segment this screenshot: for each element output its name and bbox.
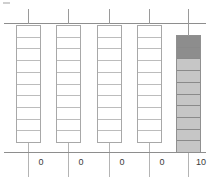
meter-cell	[138, 108, 161, 120]
meter-cell-filled	[177, 106, 200, 118]
meter-cell-filled	[177, 83, 200, 95]
meter-cell	[98, 49, 121, 61]
meter-cell-filled	[177, 95, 200, 107]
meter-cell	[98, 131, 121, 142]
meter-cell	[57, 108, 80, 120]
meter-cell	[57, 96, 80, 108]
meter-cell	[138, 85, 161, 97]
stem-top-4	[149, 9, 150, 24]
meter-cell	[17, 38, 40, 50]
meter-cell	[57, 38, 80, 50]
meter-cell	[138, 120, 161, 132]
meter-cell	[17, 49, 40, 61]
column-group-5[interactable]: 10	[167, 0, 210, 177]
column-group-2[interactable]: 0	[47, 0, 91, 177]
meter-cell	[17, 73, 40, 85]
meter-cell	[138, 131, 161, 142]
meter-cell	[57, 131, 80, 142]
meter-cell-filled	[177, 36, 200, 48]
meter-cell	[138, 61, 161, 73]
meter-cell	[57, 73, 80, 85]
meter-cell	[98, 38, 121, 50]
meter-cell	[98, 96, 121, 108]
meter-cell	[98, 73, 121, 85]
meter-column-4[interactable]	[137, 25, 162, 143]
meter-cell	[138, 38, 161, 50]
meter-cell-filled	[177, 59, 200, 71]
meter-cell	[98, 61, 121, 73]
meter-column-3[interactable]	[97, 25, 122, 143]
meter-cell	[17, 26, 40, 38]
meter-cell	[17, 61, 40, 73]
meter-cell	[98, 108, 121, 120]
meter-column-1[interactable]	[16, 25, 41, 143]
meter-cell-filled	[177, 48, 200, 60]
column-label-5: 10	[167, 156, 210, 168]
stem-top-2	[68, 9, 69, 24]
meter-cell	[57, 26, 80, 38]
meter-cell	[98, 26, 121, 38]
column-group-3[interactable]: 0	[88, 0, 132, 177]
meter-cell	[138, 73, 161, 85]
meter-cell	[17, 85, 40, 97]
meter-column-5[interactable]	[176, 35, 201, 153]
meter-cell	[57, 120, 80, 132]
meter-cell	[138, 49, 161, 61]
column-meter-chart: 0 0	[0, 0, 210, 177]
stem-top-1	[28, 9, 29, 24]
meter-cell	[138, 26, 161, 38]
meter-cell	[57, 85, 80, 97]
column-group-4[interactable]: 0	[128, 0, 172, 177]
column-group-1[interactable]: 0	[7, 0, 51, 177]
meter-cell	[17, 131, 40, 142]
meter-cell	[98, 120, 121, 132]
meter-cell-filled	[177, 130, 200, 142]
meter-cell	[17, 96, 40, 108]
meter-cell	[57, 61, 80, 73]
meter-cell	[57, 49, 80, 61]
meter-cell-filled	[177, 71, 200, 83]
bottom-axis-line	[4, 152, 206, 153]
meter-cell	[138, 96, 161, 108]
meter-cell	[17, 120, 40, 132]
meter-cell	[17, 108, 40, 120]
stem-top-3	[109, 9, 110, 24]
meter-column-2[interactable]	[56, 25, 81, 143]
stem-top-5-lower	[188, 22, 189, 36]
meter-cell-filled	[177, 141, 200, 152]
meter-cell	[98, 85, 121, 97]
meter-cell-filled	[177, 118, 200, 130]
